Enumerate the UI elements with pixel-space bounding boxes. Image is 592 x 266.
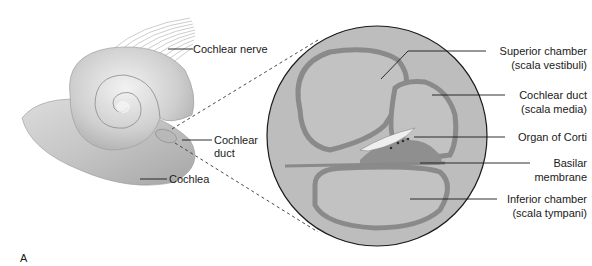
label-superior-chamber: Superior chamber [500, 45, 587, 58]
cochlea-diagram [0, 0, 592, 266]
label-organ-of-corti: Organ of Corti [518, 131, 587, 144]
label-scala-vestibuli: (scala vestibuli) [511, 59, 587, 72]
label-cochlear-duct-line1: Cochlear [214, 134, 258, 147]
label-scala-media: (scala media) [521, 103, 587, 116]
inferior-chamber [315, 167, 448, 228]
label-cochlea: Cochlea [169, 173, 209, 186]
label-membrane: membrane [534, 171, 587, 184]
label-cochlear-nerve: Cochlear nerve [193, 43, 268, 56]
label-scala-tympani: (scala tympani) [512, 207, 587, 220]
label-basilar: Basilar [553, 157, 587, 170]
label-inferior-chamber: Inferior chamber [507, 193, 587, 206]
label-cochlear-duct-line2: duct [214, 147, 235, 160]
figure-label: A [20, 252, 27, 265]
label-cochlear-duct: Cochlear duct [519, 89, 587, 102]
